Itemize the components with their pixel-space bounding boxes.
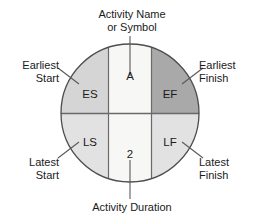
node-cell-latest-finish: LF (152, 136, 188, 148)
node-cell-activity-duration: 2 (108, 148, 152, 160)
label-earliest-start: Earliest Start (2, 59, 59, 84)
quadrant-es-fill (61, 44, 108, 113)
diagram-canvas: Activity Name or Symbol Activity Duratio… (0, 0, 263, 222)
node-cell-latest-start: LS (72, 136, 108, 148)
label-latest-finish: Latest Finish (199, 156, 261, 181)
node-cell-earliest-finish: EF (152, 88, 188, 100)
node-cell-earliest-start: ES (72, 88, 108, 100)
quadrant-ef-fill (152, 44, 199, 113)
label-activity-duration: Activity Duration (72, 201, 192, 214)
activity-node-diagram (0, 0, 263, 222)
label-latest-start: Latest Start (2, 156, 59, 181)
node-cell-activity-name: A (108, 70, 152, 82)
label-activity-name: Activity Name or Symbol (78, 8, 186, 33)
label-earliest-finish: Earliest Finish (199, 59, 261, 84)
